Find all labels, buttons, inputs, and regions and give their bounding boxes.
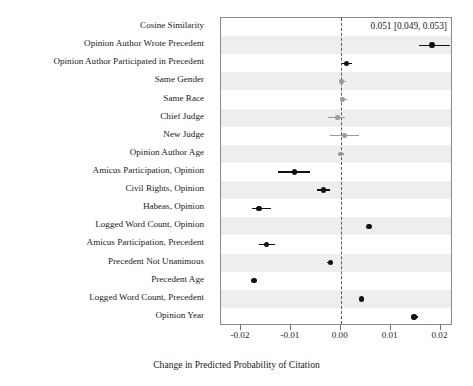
x-axis: -0.02-0.010.000.010.02 bbox=[220, 325, 452, 326]
row-band bbox=[221, 181, 451, 199]
forest-plot-figure: Cosine SimilarityOpinion Author Wrote Pr… bbox=[0, 0, 473, 386]
row-label: Precedent Not Unanimous bbox=[0, 257, 212, 266]
plot-panel: 0.051 [0.049, 0.053] bbox=[220, 17, 452, 325]
estimate-point-marker bbox=[342, 133, 347, 138]
row-band bbox=[221, 217, 451, 235]
row-label: Opinion Author Participated in Precedent bbox=[0, 57, 212, 66]
estimate-point-marker bbox=[264, 242, 269, 247]
x-axis-tick-label: -0.02 bbox=[220, 331, 260, 340]
estimate-point-marker bbox=[339, 79, 344, 84]
row-label: Logged Word Count, Opinion bbox=[0, 220, 212, 229]
estimate-point-marker bbox=[256, 206, 261, 211]
row-label: Amicus Participation, Opinion bbox=[0, 166, 212, 175]
row-label: Opinion Author Wrote Precedent bbox=[0, 39, 212, 48]
estimate-point-marker bbox=[359, 296, 364, 301]
row-label: Same Race bbox=[0, 94, 212, 103]
row-label: Same Gender bbox=[0, 75, 212, 84]
estimate-point-marker bbox=[292, 169, 297, 174]
estimate-point-marker bbox=[340, 97, 345, 102]
estimate-point-marker bbox=[411, 314, 416, 319]
x-axis-tick-label: 0.02 bbox=[420, 331, 460, 340]
row-label: Cosine Similarity bbox=[0, 21, 212, 30]
row-label: Opinion Author Age bbox=[0, 148, 212, 157]
row-label: Logged Word Count, Precedent bbox=[0, 293, 212, 302]
row-label: Precedent Age bbox=[0, 275, 212, 284]
estimate-point-marker bbox=[366, 224, 371, 229]
x-axis-tick-label: 0.00 bbox=[320, 331, 360, 340]
row-label: Habeas, Opinion bbox=[0, 202, 212, 211]
row-label-column: Cosine SimilarityOpinion Author Wrote Pr… bbox=[0, 17, 212, 325]
row-band bbox=[221, 254, 451, 272]
row-label: Opinion Year bbox=[0, 311, 212, 320]
estimate-point-marker bbox=[429, 42, 434, 47]
estimate-point-marker bbox=[338, 152, 343, 157]
estimate-point-marker bbox=[251, 278, 256, 283]
estimate-point-marker bbox=[344, 61, 349, 66]
offscale-estimate-annotation: 0.051 [0.049, 0.053] bbox=[370, 22, 447, 31]
row-label: New Judge bbox=[0, 130, 212, 139]
row-label: Chief Judge bbox=[0, 112, 212, 121]
row-band bbox=[221, 36, 451, 54]
row-band bbox=[221, 145, 451, 163]
row-label: Amicus Participation, Precedent bbox=[0, 238, 212, 247]
estimate-point-marker bbox=[335, 115, 340, 120]
x-axis-tick-label: -0.01 bbox=[270, 331, 310, 340]
row-band bbox=[221, 72, 451, 90]
row-label: Civil Rights, Opinion bbox=[0, 184, 212, 193]
row-band bbox=[221, 290, 451, 308]
x-axis-tick-label: 0.01 bbox=[370, 331, 410, 340]
x-axis-title: Change in Predicted Probability of Citat… bbox=[0, 360, 473, 370]
